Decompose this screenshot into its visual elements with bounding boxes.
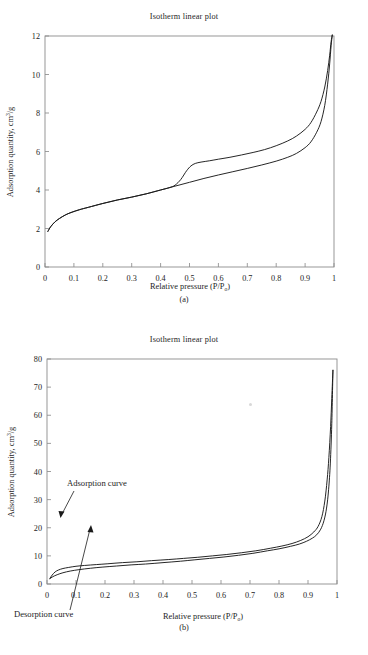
y-axis-title-a: Adsorption quantity, cm3/g — [5, 106, 15, 197]
y-tick-label: 80 — [34, 355, 42, 364]
x-tick-label: 0.7 — [245, 591, 255, 600]
chart-title-b: Isotherm linear plot — [0, 322, 368, 344]
y-tick-label: 2 — [36, 225, 40, 234]
y-tick-label: 50 — [34, 439, 42, 448]
y-tick-label: 0 — [38, 580, 42, 589]
annotation-adsorption-label: Adsorption curve — [67, 478, 127, 488]
desorption-curve-a — [48, 35, 332, 231]
y-tick-label: 40 — [34, 468, 42, 477]
annotation-adsorption-arrowhead — [59, 511, 65, 518]
desorption-curve-b — [50, 370, 333, 578]
x-axis-title-b: Relative pressure (P/Po) — [163, 612, 243, 622]
x-tick-label: 0.2 — [98, 274, 108, 283]
y-tick-label: 8 — [36, 109, 40, 118]
plot-area-a: 00.10.20.30.40.50.60.70.80.91024681012 A… — [0, 21, 368, 293]
plot-frame-a — [45, 36, 334, 267]
x-tick-label: 0.2 — [100, 591, 110, 600]
y-tick-label: 10 — [34, 552, 42, 561]
x-tick-label: 0.3 — [129, 591, 139, 600]
x-tick-label: 0.4 — [158, 591, 168, 600]
x-tick-label: 0.9 — [303, 591, 313, 600]
plot-area-b: 00.10.20.30.40.50.60.70.80.9101020304050… — [0, 344, 368, 622]
axis-ticks-a — [45, 36, 334, 267]
x-tick-label: 1 — [335, 591, 339, 600]
y-tick-label: 60 — [34, 411, 42, 420]
annotation-desorption-label: Desorption curve — [14, 609, 74, 619]
panel-caption-a: (a) — [0, 295, 368, 304]
x-tick-label: 0.8 — [274, 591, 284, 600]
adsorption-curve-a — [48, 35, 332, 231]
x-tick-label: 0.8 — [271, 274, 281, 283]
figure-panel-b: Isotherm linear plot 00.10.20.30.40.50.6… — [0, 322, 368, 655]
x-tick-label: 0.5 — [187, 591, 197, 600]
figure-panel-a: Isotherm linear plot 00.10.20.30.40.50.6… — [0, 0, 368, 330]
y-tick-label: 20 — [34, 524, 42, 533]
isotherm-chart-a: 00.10.20.30.40.50.60.70.80.91024681012 A… — [0, 21, 368, 293]
x-tick-label: 0.6 — [216, 591, 226, 600]
y-tick-label: 70 — [34, 383, 42, 392]
axis-tick-labels-a: 00.10.20.30.40.50.60.70.80.91024681012 — [32, 32, 336, 283]
annotation-adsorption-leader — [62, 491, 74, 514]
chart-title-a: Isotherm linear plot — [0, 0, 368, 21]
scan-speck — [249, 403, 252, 406]
x-tick-label: 0 — [45, 591, 49, 600]
y-tick-label: 30 — [34, 496, 42, 505]
x-tick-label: 0 — [43, 274, 47, 283]
svg-text:Adsorption quantity, cm3/g: Adsorption quantity, cm3/g — [6, 426, 16, 517]
annotation-desorption-arrowhead — [88, 525, 94, 533]
axis-ticks-b — [47, 359, 337, 584]
x-tick-label: 1 — [332, 274, 336, 283]
x-tick-label: 0.1 — [69, 274, 79, 283]
plot-frame-b — [47, 359, 337, 584]
y-tick-label: 10 — [32, 71, 40, 80]
x-tick-label: 0.9 — [300, 274, 310, 283]
svg-text:Adsorption quantity, cm3/g: Adsorption quantity, cm3/g — [5, 106, 15, 197]
y-tick-label: 12 — [32, 32, 40, 41]
panel-caption-b: (b) — [0, 623, 368, 632]
adsorption-curve-b — [50, 370, 333, 578]
x-axis-title-a: Relative pressure (P/Po) — [150, 282, 230, 292]
isotherm-chart-b: 00.10.20.30.40.50.60.70.80.9101020304050… — [0, 344, 368, 622]
y-tick-label: 4 — [36, 186, 40, 195]
y-axis-title-b: Adsorption quantity, cm3/g — [6, 426, 16, 517]
x-tick-label: 0.7 — [242, 274, 252, 283]
y-tick-label: 6 — [36, 148, 40, 157]
x-tick-label: 0.3 — [127, 274, 137, 283]
y-tick-label: 0 — [36, 263, 40, 272]
